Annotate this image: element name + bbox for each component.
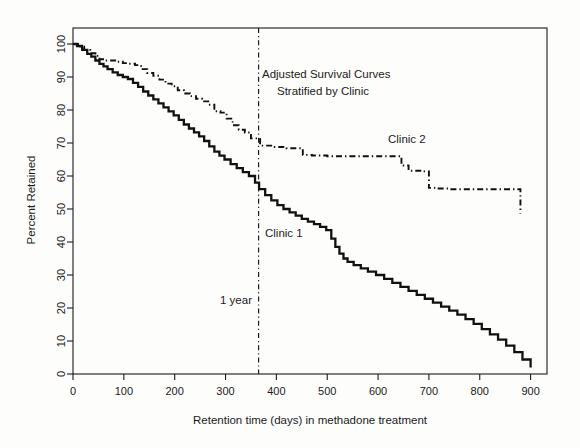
y-tick-label: 80 [55,104,67,116]
x-tick-label: 900 [521,385,539,397]
survival-chart-figure: 0100200300400500600700800900 01020304050… [0,0,580,448]
x-tick-label: 200 [166,385,184,397]
chart-canvas: 0100200300400500600700800900 01020304050… [0,0,580,448]
y-tick-label: 100 [55,35,67,53]
y-tick-label: 0 [55,371,67,377]
y-tick-label: 20 [55,302,67,314]
y-tick-label: 70 [55,137,67,149]
y-tick-label: 40 [55,236,67,248]
x-tick-label: 0 [70,385,76,397]
x-tick-label: 100 [115,385,133,397]
x-tick-label: 800 [471,385,489,397]
y-axis-ticks: 0102030405060708090100 [55,35,73,377]
y-tick-label: 10 [55,335,67,347]
x-tick-label: 600 [369,385,387,397]
y-axis-title: Percent Retained [25,156,37,245]
clinic-2-curve-label: Clinic 2 [388,133,426,145]
x-tick-label: 300 [216,385,234,397]
y-tick-label: 50 [55,203,67,215]
x-axis-title: Retention time (days) in methadone treat… [193,414,428,426]
y-tick-label: 60 [55,170,67,182]
chart-title-line-1: Adjusted Survival Curves [262,68,391,80]
chart-title-line-2: Stratified by Clinic [277,85,369,97]
y-tick-label: 90 [55,71,67,83]
x-tick-label: 500 [318,385,336,397]
x-tick-label: 400 [267,385,285,397]
y-tick-label: 30 [55,269,67,281]
one-year-label: 1 year [220,294,252,306]
clinic-1-curve-label: Clinic 1 [265,227,303,239]
x-axis-ticks: 0100200300400500600700800900 [70,374,540,397]
x-tick-label: 700 [420,385,438,397]
